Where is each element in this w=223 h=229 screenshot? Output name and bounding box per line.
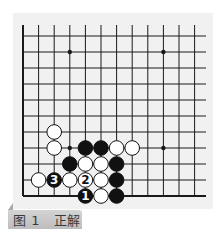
- white-stone: [94, 173, 109, 188]
- white-stone: 2: [78, 173, 93, 188]
- star-point: [68, 146, 72, 150]
- black-stone: [109, 157, 124, 172]
- star-point: [161, 146, 165, 150]
- star-point: [161, 50, 165, 54]
- black-stone: [109, 173, 124, 188]
- caption-text: 图 1 正解: [8, 210, 81, 229]
- black-stone: [94, 141, 109, 156]
- white-stone: [47, 141, 62, 156]
- figure-caption: 图 1 正解: [8, 210, 82, 229]
- white-stone: [125, 141, 140, 156]
- white-stone: [63, 173, 78, 188]
- white-stone: [47, 125, 62, 140]
- white-stone: [94, 189, 109, 204]
- white-stone: [94, 157, 109, 172]
- black-stone: 1: [78, 189, 93, 204]
- white-stone: [109, 141, 124, 156]
- go-board: 321: [0, 0, 223, 229]
- black-stone: [63, 157, 78, 172]
- black-stone: 3: [47, 173, 62, 188]
- white-stone: [31, 173, 46, 188]
- move-number: 3: [50, 173, 58, 187]
- caption-fold-icon: [8, 203, 13, 210]
- move-number: 1: [81, 189, 89, 203]
- move-number: 2: [81, 173, 89, 187]
- black-stone: [109, 189, 124, 204]
- star-point: [68, 50, 72, 54]
- white-stone: [78, 157, 93, 172]
- black-stone: [78, 141, 93, 156]
